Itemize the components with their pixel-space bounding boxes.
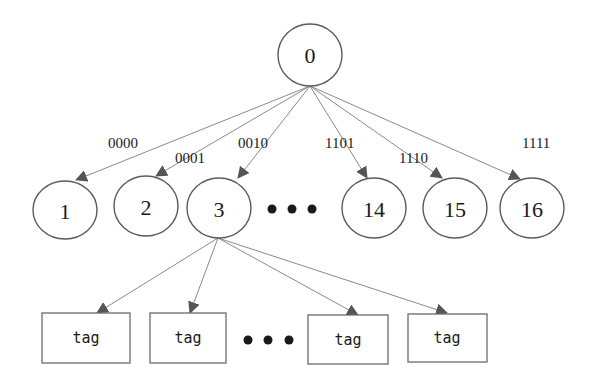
tag-box-3: tag <box>308 315 388 364</box>
children-ellipsis <box>268 205 317 214</box>
node-label: 16 <box>521 197 543 222</box>
edge-3-tag-2 <box>190 238 218 313</box>
ellipsis-dot <box>308 205 317 214</box>
tree-diagram: 0000 0001 0010 1101 1110 1111 0 1 2 3 14 <box>0 0 591 385</box>
tag-label: tag <box>72 329 99 347</box>
child-node-2: 2 <box>114 176 178 236</box>
edge-label-1110: 1110 <box>399 150 428 166</box>
ellipsis-dot <box>285 336 294 345</box>
edge-label-1101: 1101 <box>325 135 354 151</box>
root-node: 0 <box>278 24 342 86</box>
ellipsis-dot <box>244 336 253 345</box>
ellipsis-dot <box>264 336 273 345</box>
node-label: 3 <box>214 197 225 222</box>
tag-box-1: tag <box>42 313 130 363</box>
node-label: 14 <box>363 197 385 222</box>
edge-labels: 0000 0001 0010 1101 1110 1111 <box>108 135 550 166</box>
child-node-15: 15 <box>423 178 487 238</box>
tag-box-2: tag <box>150 313 226 363</box>
node-label: 1 <box>60 199 71 224</box>
edge-label-0000: 0000 <box>108 135 138 151</box>
node-label: 15 <box>444 197 466 222</box>
tag-label: tag <box>433 329 460 347</box>
tag-label: tag <box>174 329 201 347</box>
ellipsis-dot <box>268 205 277 214</box>
child-node-1: 1 <box>33 181 97 239</box>
child-node-14: 14 <box>342 178 406 238</box>
child-node-3: 3 <box>187 178 251 238</box>
edge-3-tag-1 <box>97 238 218 313</box>
edge-0-14 <box>310 86 367 178</box>
edge-label-1111: 1111 <box>522 135 550 151</box>
edge-0-3 <box>238 86 310 178</box>
ellipsis-dot <box>288 205 297 214</box>
node-label: 2 <box>141 195 152 220</box>
child-node-16: 16 <box>500 178 564 238</box>
edge-label-0001: 0001 <box>175 150 205 166</box>
tag-box-4: tag <box>408 314 487 362</box>
leaves-ellipsis <box>244 336 294 345</box>
edge-label-0010: 0010 <box>238 135 268 151</box>
leaf-edges <box>97 238 447 315</box>
root-edges <box>76 86 520 180</box>
root-node-label: 0 <box>305 43 316 68</box>
edge-3-tag-4 <box>218 238 447 313</box>
tag-label: tag <box>334 331 361 349</box>
